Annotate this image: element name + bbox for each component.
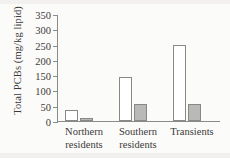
y-tick-mark <box>53 122 57 123</box>
x-axis-label-1: Southernresidents <box>111 125 165 151</box>
y-tick-label: 50 <box>21 101 51 112</box>
bar-white-bar-1 <box>119 77 132 121</box>
y-tick-label: 100 <box>21 86 51 97</box>
bar-white-bar-2 <box>173 45 186 121</box>
bar-white-bar-0 <box>65 110 78 121</box>
y-tick-label: 350 <box>21 10 51 21</box>
x-axis-label-2: Transients <box>165 125 219 138</box>
bar-gray-bar-2 <box>188 104 201 121</box>
bar-group <box>111 14 165 121</box>
bar-series-container <box>57 14 220 121</box>
y-tick-label: 0 <box>21 117 51 128</box>
bar-gray-bar-0 <box>80 118 93 121</box>
y-tick-label: 200 <box>21 55 51 66</box>
x-axis-line <box>57 121 220 122</box>
y-tick-label: 250 <box>21 40 51 51</box>
chart-figure: Total PCBs (mg/kg lipid) 050100150200250… <box>0 0 230 158</box>
x-axis-labels: NorthernresidentsSouthernresidentsTransi… <box>57 125 220 157</box>
bar-group <box>57 14 111 121</box>
x-axis-label-0: Northernresidents <box>57 125 111 151</box>
y-tick-label: 300 <box>21 25 51 36</box>
bar-group <box>165 14 219 121</box>
bar-gray-bar-1 <box>134 104 147 121</box>
plot-area: 050100150200250300350 <box>57 15 220 122</box>
y-tick-label: 150 <box>21 71 51 82</box>
